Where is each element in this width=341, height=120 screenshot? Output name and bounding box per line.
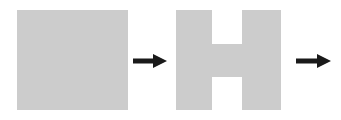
- h-shape-glyph: [176, 10, 281, 110]
- shape-transformation-diagram: [0, 0, 341, 120]
- arrow-right-glyph: [296, 50, 341, 72]
- arrow-right-glyph: [133, 50, 167, 72]
- square-glyph: [17, 10, 128, 110]
- arrow-right-icon-1: [133, 50, 167, 72]
- shape-square: [17, 10, 128, 110]
- shape-h: [176, 10, 281, 110]
- arrow-right-icon-2: [296, 50, 341, 72]
